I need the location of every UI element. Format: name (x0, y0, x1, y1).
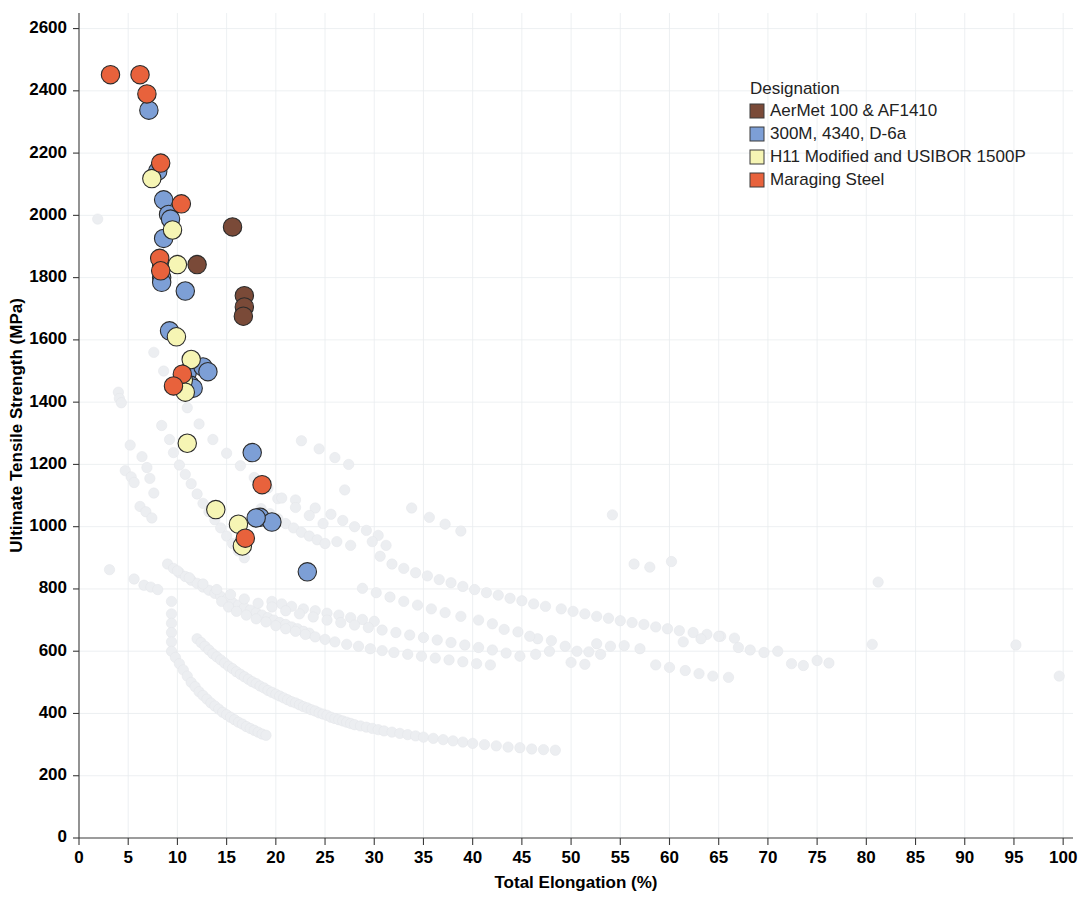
data-point-background (314, 444, 324, 454)
data-point-background (432, 635, 442, 645)
data-point-background (812, 655, 822, 665)
data-point-background (729, 633, 739, 643)
data-point-background (377, 625, 387, 635)
data-point-background (371, 587, 381, 597)
data-point-background (580, 609, 590, 619)
data-point[interactable] (138, 85, 156, 103)
data-point[interactable] (234, 307, 252, 325)
legend-swatch[interactable] (750, 150, 764, 164)
data-point[interactable] (199, 362, 217, 380)
legend-swatch[interactable] (750, 127, 764, 141)
data-point[interactable] (163, 221, 181, 239)
data-point-background (418, 732, 428, 742)
data-point-background (320, 634, 330, 644)
legend-swatch[interactable] (750, 104, 764, 118)
data-point-background (645, 562, 655, 572)
data-point[interactable] (207, 500, 225, 518)
data-point[interactable] (101, 65, 119, 83)
data-point-background (505, 593, 515, 603)
data-point-background (290, 626, 300, 636)
data-point-background (341, 639, 351, 649)
data-point-background (340, 485, 350, 495)
data-point-background (458, 737, 468, 747)
y-tick-label: 1400 (29, 392, 67, 411)
data-point-background (422, 571, 432, 581)
x-tick-label: 35 (414, 848, 433, 867)
data-point[interactable] (131, 65, 149, 83)
data-point[interactable] (167, 328, 185, 346)
data-point[interactable] (298, 563, 316, 581)
data-point-background (338, 515, 348, 525)
data-point[interactable] (151, 262, 169, 280)
data-point-background (182, 403, 192, 413)
data-point-background (142, 462, 152, 472)
data-point-background (786, 658, 796, 668)
data-point-background (759, 647, 769, 657)
data-point-background (267, 602, 277, 612)
data-point-background (318, 518, 328, 528)
data-point-background (332, 536, 342, 546)
data-point[interactable] (168, 255, 186, 273)
y-tick-label: 2000 (29, 205, 67, 224)
data-point-background (184, 573, 194, 583)
data-point-background (458, 581, 468, 591)
y-tick-label: 2400 (29, 80, 67, 99)
data-point[interactable] (223, 218, 241, 236)
data-point-background (460, 640, 470, 650)
legend-item[interactable]: Maraging Steel (750, 170, 884, 189)
x-tick-label: 90 (955, 848, 974, 867)
data-point-background (458, 657, 468, 667)
series-2 (140, 101, 317, 581)
data-point-background (591, 639, 601, 649)
data-point[interactable] (247, 509, 265, 527)
data-point[interactable] (176, 282, 194, 300)
data-point-background (544, 646, 554, 656)
legend-item[interactable]: H11 Modified and USIBOR 1500P (750, 147, 1026, 166)
y-tick-label: 800 (39, 578, 67, 597)
x-tick-label: 50 (562, 848, 581, 867)
y-axis-ticks: 0200400600800100012001400160018002000220… (29, 18, 79, 846)
data-point-background (503, 742, 513, 752)
data-point-background (158, 366, 168, 376)
legend-item[interactable]: AerMet 100 & AF1410 (750, 101, 937, 120)
data-point[interactable] (164, 377, 182, 395)
data-point-background (349, 521, 359, 531)
x-tick-label: 80 (857, 848, 876, 867)
x-tick-label: 85 (906, 848, 925, 867)
legend-item[interactable]: 300M, 4340, D-6a (750, 124, 907, 143)
data-point-background (326, 509, 336, 519)
data-point[interactable] (151, 154, 169, 172)
data-point[interactable] (172, 195, 190, 213)
x-tick-label: 45 (512, 848, 531, 867)
data-point-background (446, 578, 456, 588)
data-point-background (556, 604, 566, 614)
legend-label: H11 Modified and USIBOR 1500P (770, 147, 1026, 166)
data-point-background (308, 612, 318, 622)
y-tick-label: 2200 (29, 143, 67, 162)
data-point-background (235, 460, 245, 470)
data-point-background (198, 579, 208, 589)
data-point[interactable] (178, 434, 196, 452)
data-point-background (501, 648, 511, 658)
data-point-background (456, 526, 466, 536)
legend-swatch[interactable] (750, 173, 764, 187)
x-tick-label: 25 (316, 848, 335, 867)
data-point[interactable] (253, 475, 271, 493)
data-point-background (357, 583, 367, 593)
data-point-background (629, 559, 639, 569)
y-tick-label: 2600 (29, 18, 67, 37)
data-point-background (448, 736, 458, 746)
data-point[interactable] (243, 443, 261, 461)
data-point-background (345, 540, 355, 550)
data-point-background (300, 629, 310, 639)
data-point-background (627, 617, 637, 627)
data-point-background (164, 434, 174, 444)
data-point[interactable] (140, 101, 158, 119)
data-point-background (674, 625, 684, 635)
data-point-background (678, 637, 688, 647)
data-point[interactable] (188, 255, 206, 273)
data-point-background (290, 502, 300, 512)
data-point[interactable] (236, 529, 254, 547)
data-point-background (406, 503, 416, 513)
data-point-background (530, 649, 540, 659)
